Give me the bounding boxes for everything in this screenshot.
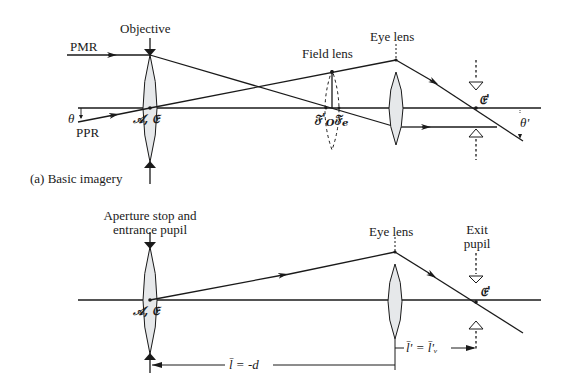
ppr-label: PPR [76,126,99,140]
bottom-diagram [78,232,541,373]
eprime-label-bottom: 𝔈' [480,285,491,299]
dimension-lprime-label: l̄' = l̄'ᵥ [406,341,438,355]
eye-lens-bottom [388,264,402,339]
exit-pupil-arrow-top-icon [469,82,483,90]
field-lens-label: Field lens [302,47,353,61]
fc-label: 𝔉e [334,112,348,130]
ae-label-top: 𝒜, 𝔈 [133,112,159,126]
caption-basic-imagery: (a) Basic imagery [30,172,122,186]
stop-arrow-bottom-icon [144,161,156,168]
eye-lens-label-bottom: Eye lens [369,225,413,239]
exit-pupil-arrow-bottom-icon [469,129,483,137]
theta-prime-label: θ' [520,116,529,130]
pmr-label: PMR [70,40,97,54]
eye-lens-top [389,72,403,145]
aperture-stop-label: Aperture stop and entrance pupil [95,209,205,237]
eye-lens-label-top: Eye lens [370,30,414,44]
objective-label: Objective [120,22,171,36]
eprime-label-top: 𝔈' [479,93,490,107]
stop-arrow-top-icon [144,242,156,249]
dimension-l-label: l̄ = -d [229,358,259,372]
optics-diagram [0,0,569,373]
stop-arrow-bottom-icon [144,353,156,360]
ae-label-bottom: 𝒜, 𝔈 [133,304,159,318]
exit-pupil-arrow-top-icon [469,276,483,283]
theta-label: θ [68,112,74,126]
exit-pupil-label: Exit pupil [460,223,494,251]
fo-prime-label: 𝔉'O [314,112,334,130]
exit-pupil-arrow-bottom-icon [469,321,483,329]
